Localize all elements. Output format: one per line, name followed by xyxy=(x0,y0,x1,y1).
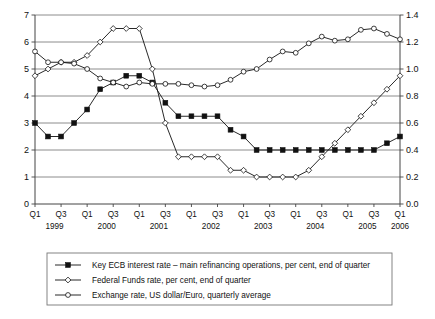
marker-filled-square xyxy=(124,73,129,78)
x-axis-year-label: 2005 xyxy=(358,222,377,231)
marker-open-circle xyxy=(202,84,207,89)
marker-open-circle xyxy=(137,80,142,85)
marker-open-diamond xyxy=(136,26,142,32)
marker-open-diamond xyxy=(202,154,208,160)
x-axis-quarter-label: Q1 xyxy=(395,210,406,219)
y-axis-left-tick: 1 xyxy=(24,172,29,182)
marker-filled-square xyxy=(358,148,363,153)
marker-open-circle xyxy=(385,32,390,37)
marker-filled-square xyxy=(345,148,350,153)
y-axis-left-tick: 4 xyxy=(24,91,29,101)
x-axis-quarter-label: Q3 xyxy=(108,210,119,219)
marker-open-circle xyxy=(254,67,259,72)
x-axis-quarter-label: Q3 xyxy=(368,210,379,219)
x-axis-quarter-label: Q1 xyxy=(238,210,249,219)
marker-filled-square xyxy=(66,263,71,268)
marker-open-circle xyxy=(345,37,350,42)
chart-legend: Key ECB interest rate – main refinancing… xyxy=(47,253,392,305)
marker-filled-square xyxy=(254,148,259,153)
marker-open-diamond xyxy=(293,174,299,180)
y-axis-right-tick: 1.2 xyxy=(406,37,419,47)
marker-filled-square xyxy=(241,134,246,139)
marker-filled-square xyxy=(215,114,220,119)
marker-open-circle xyxy=(398,37,403,42)
x-axis-quarter-label: Q1 xyxy=(134,210,145,219)
x-axis-year-label: 2000 xyxy=(98,222,117,231)
marker-open-circle xyxy=(33,49,38,54)
marker-open-circle xyxy=(332,38,337,43)
marker-filled-square xyxy=(202,114,207,119)
marker-open-circle xyxy=(228,77,233,82)
legend-label: Key ECB interest rate – main refinancing… xyxy=(92,261,370,270)
y-axis-left-tick: 7 xyxy=(24,10,29,20)
marker-open-diamond xyxy=(189,154,195,160)
marker-open-circle xyxy=(150,81,155,86)
x-axis-quarter-label: Q1 xyxy=(342,210,353,219)
marker-open-circle xyxy=(176,81,181,86)
marker-filled-square xyxy=(98,87,103,92)
x-axis-year-label: 1999 xyxy=(45,222,64,231)
marker-filled-square xyxy=(85,107,90,112)
marker-filled-square xyxy=(189,114,194,119)
marker-open-diamond xyxy=(280,174,286,180)
marker-open-diamond xyxy=(175,154,181,160)
y-axis-left-tick: 5 xyxy=(24,64,29,74)
x-axis-year-label: 2002 xyxy=(202,222,221,231)
marker-open-circle xyxy=(293,50,298,55)
legend-label: Federal Funds rate, per cent, end of qua… xyxy=(92,276,251,285)
x-axis-quarter-label: Q3 xyxy=(56,210,67,219)
y-axis-right-tick: 0.6 xyxy=(406,118,419,128)
legend-entry: Federal Funds rate, per cent, end of qua… xyxy=(55,276,251,285)
marker-filled-square xyxy=(306,148,311,153)
marker-filled-square xyxy=(72,121,77,126)
marker-filled-square xyxy=(176,114,181,119)
legend-entry: Key ECB interest rate – main refinancing… xyxy=(55,261,370,270)
y-axis-left-tick: 3 xyxy=(24,118,29,128)
y-axis-left-tick-labels: 01234567 xyxy=(24,10,35,209)
x-axis-quarter-label: Q3 xyxy=(316,210,327,219)
x-axis-year-labels: 19992000200120022003200420052006 xyxy=(45,222,409,231)
marker-open-circle xyxy=(215,83,220,88)
marker-open-circle xyxy=(59,60,64,65)
x-axis-year-label: 2004 xyxy=(306,222,325,231)
marker-filled-square xyxy=(137,73,142,78)
marker-filled-square xyxy=(293,148,298,153)
marker-open-diamond xyxy=(267,174,273,180)
x-axis-quarter-label: Q3 xyxy=(160,210,171,219)
marker-open-diamond xyxy=(149,66,155,72)
marker-filled-square xyxy=(385,141,390,146)
marker-open-circle xyxy=(124,84,129,89)
marker-open-diamond xyxy=(123,26,129,32)
marker-open-circle xyxy=(358,27,363,32)
marker-filled-square xyxy=(267,148,272,153)
series-2 xyxy=(32,26,403,180)
marker-open-circle xyxy=(98,76,103,81)
marker-filled-square xyxy=(280,148,285,153)
x-axis-quarter-label: Q1 xyxy=(290,210,301,219)
marker-open-diamond xyxy=(162,120,168,126)
chart-figure: 01234567 0.00.20.40.60.81.01.21.4 Q1Q3Q1… xyxy=(0,0,435,319)
marker-filled-square xyxy=(319,148,324,153)
x-axis-quarter-label: Q3 xyxy=(212,210,223,219)
x-axis-tick-labels: Q1Q3Q1Q3Q1Q3Q1Q3Q1Q3Q1Q3Q1Q3Q1 xyxy=(30,204,406,219)
y-axis-left-tick: 6 xyxy=(24,37,29,47)
marker-open-circle xyxy=(163,81,168,86)
x-axis-quarter-label: Q1 xyxy=(82,210,93,219)
marker-open-circle xyxy=(280,49,285,54)
legend-label: Exchange rate, US dollar/Euro, quarterly… xyxy=(92,291,271,300)
marker-open-circle xyxy=(189,83,194,88)
marker-filled-square xyxy=(372,148,377,153)
marker-open-circle xyxy=(85,67,90,72)
y-axis-right-tick: 0.8 xyxy=(406,91,419,101)
marker-filled-square xyxy=(398,134,403,139)
y-axis-right-tick: 1.0 xyxy=(406,64,419,74)
marker-filled-square xyxy=(59,134,64,139)
marker-open-diamond xyxy=(45,66,51,72)
marker-open-circle xyxy=(319,34,324,39)
y-axis-right-tick: 0.2 xyxy=(406,172,419,182)
x-axis-year-label: 2003 xyxy=(254,222,273,231)
marker-open-circle xyxy=(241,69,246,74)
marker-open-circle xyxy=(66,293,71,298)
x-axis-quarter-label: Q3 xyxy=(264,210,275,219)
y-axis-right-tick: 0.0 xyxy=(406,199,419,209)
